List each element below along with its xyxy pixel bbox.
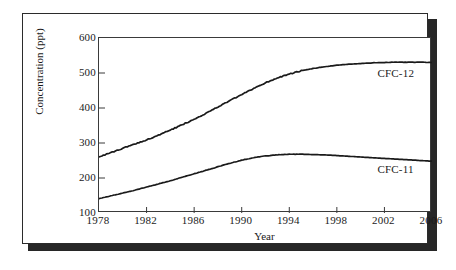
x-tick-label: 1986 bbox=[171, 214, 215, 226]
y-tick-label: 600 bbox=[62, 32, 96, 43]
x-axis-title: Year bbox=[98, 230, 431, 242]
x-tick-label: 1978 bbox=[76, 214, 120, 226]
series-label-cfc-12: CFC-12 bbox=[377, 67, 414, 79]
y-axis-title: Concentration (ppt) bbox=[34, 12, 45, 132]
y-axis-tick-labels: 100200300400500600 bbox=[56, 37, 96, 212]
x-tick-label: 2002 bbox=[361, 214, 405, 226]
x-tick-label: 1982 bbox=[124, 214, 168, 226]
series-line-cfc-11 bbox=[99, 154, 432, 198]
plot-area bbox=[98, 37, 431, 212]
figure-frame: 100200300400500600 Concentration (ppt) 1… bbox=[22, 13, 428, 244]
x-axis-tick-labels: 19781982198619901994199820022006 bbox=[98, 214, 431, 230]
x-tick-label: 2006 bbox=[409, 214, 453, 226]
x-tick-label: 1990 bbox=[219, 214, 263, 226]
y-tick-label: 500 bbox=[62, 67, 96, 78]
y-tick-label: 300 bbox=[62, 137, 96, 148]
y-tick-label: 400 bbox=[62, 102, 96, 113]
series-label-cfc-11: CFC-11 bbox=[377, 163, 413, 175]
figure-container: 100200300400500600 Concentration (ppt) 1… bbox=[0, 0, 456, 270]
y-tick-label: 200 bbox=[62, 172, 96, 183]
x-tick-label: 1998 bbox=[314, 214, 358, 226]
line-chart-svg bbox=[99, 38, 432, 213]
x-tick-label: 1994 bbox=[266, 214, 310, 226]
